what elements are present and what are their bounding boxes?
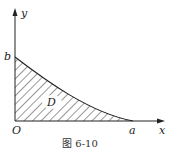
figure-diagram: y b O a x D 图 6-10 <box>0 0 170 155</box>
region-d-hatched <box>15 57 133 121</box>
x-axis-arrow-icon <box>157 119 165 124</box>
origin-label: O <box>12 124 21 137</box>
figure-caption: 图 6-10 <box>62 138 98 149</box>
y-intercept-label: b <box>4 50 11 63</box>
y-axis-label: y <box>20 7 28 20</box>
x-axis-label: x <box>159 124 166 137</box>
y-axis-arrow-icon <box>13 8 18 16</box>
region-label: D <box>46 96 56 109</box>
x-intercept-label: a <box>129 124 136 137</box>
